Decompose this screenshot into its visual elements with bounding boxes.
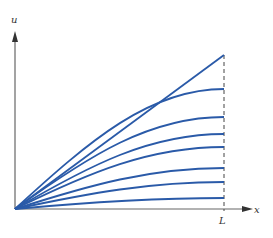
curve-family [15, 55, 224, 209]
x-axis-label: x [254, 204, 260, 215]
diagram-canvas: u x L [0, 0, 273, 238]
x-tick-label-L: L [218, 215, 226, 226]
curve-1 [15, 55, 224, 209]
y-axis-arrow-icon [12, 31, 18, 42]
y-axis-label: u [11, 14, 17, 25]
curve-3 [15, 117, 224, 209]
x-axis-arrow-icon [242, 206, 253, 212]
